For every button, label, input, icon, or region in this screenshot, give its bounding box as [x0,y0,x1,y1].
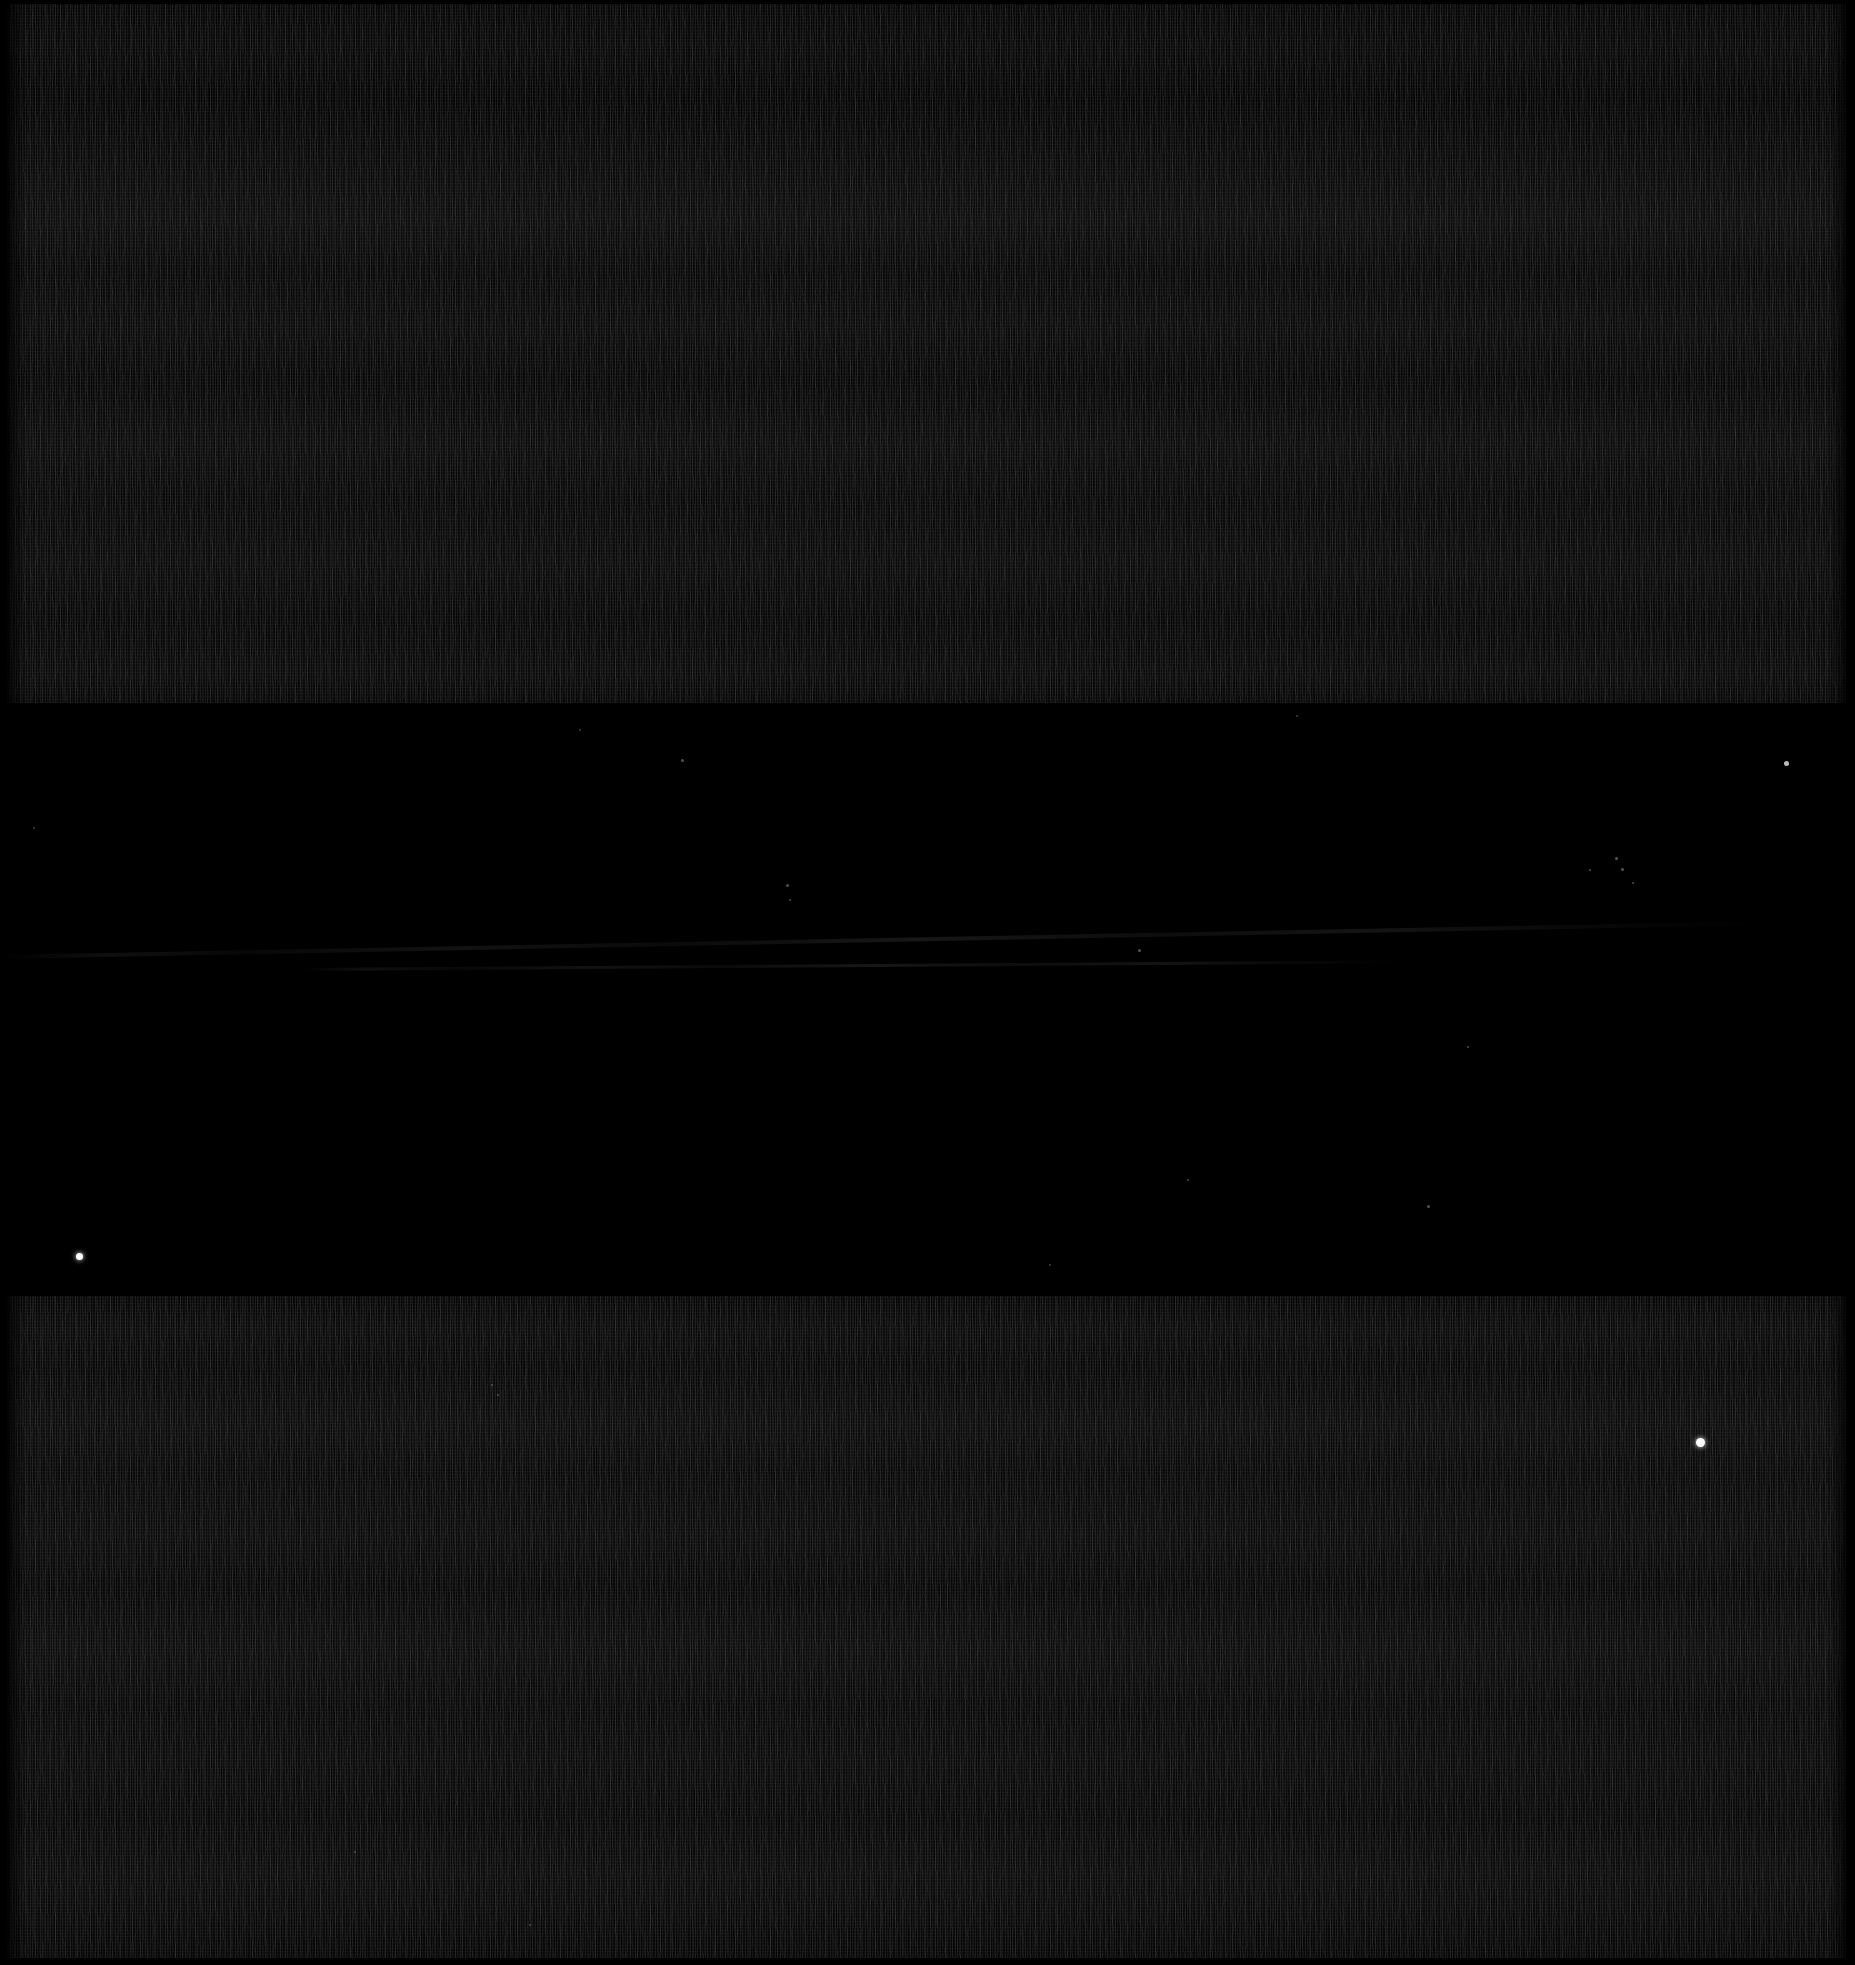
row-brightness-modulation-top [0,4,1855,703]
edge-vignette-top [0,4,1855,703]
row-brightness-modulation-bottom [0,1296,1855,1958]
image-title: Astronomical detector frame [0,0,1,1]
image-description: Near-black wide-field exposure composed … [0,0,1,1]
image-canvas: Upper detector strip Sky gap Lower detec… [0,0,1855,1965]
noise-grain-layer-c [0,4,1855,703]
border-bottom [0,1959,1855,1965]
noise-grain-layer-b [0,4,1855,703]
noise-grain-layer-a [0,1296,1855,1958]
detector-noise-field-top [0,4,1855,703]
sky-background [0,703,1855,1296]
edge-vignette-bottom [0,1296,1855,1958]
sky-gap-band: Sky gap [0,703,1855,1296]
noise-grain-layer-b [0,1296,1855,1958]
bottom-detector-strip: Lower detector strip [0,1296,1855,1958]
noise-grain-layer-c [0,1296,1855,1958]
detector-noise-field-bottom [0,1296,1855,1958]
top-detector-strip: Upper detector strip [0,4,1855,703]
noise-grain-layer-a [0,4,1855,703]
